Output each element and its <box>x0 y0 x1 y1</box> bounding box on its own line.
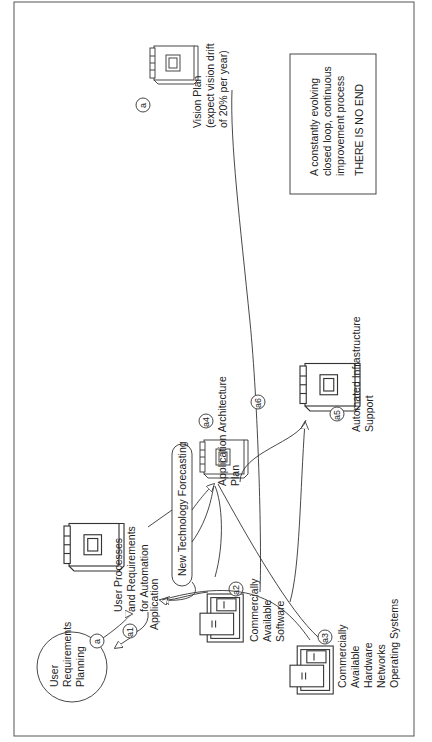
svg-text:New Technology Forecasting: New Technology Forecasting <box>176 441 188 576</box>
node-commercially-available-hardware[interactable]: a3 Commercially Available Hardware Netwo… <box>290 599 400 694</box>
svg-text:Vision Plan: Vision Plan <box>191 75 203 128</box>
svg-text:a4: a4 <box>201 417 211 427</box>
svg-text:Hardware: Hardware <box>362 642 374 688</box>
badge-a2: a2 <box>229 582 243 596</box>
svg-text:User Processes: User Processes <box>112 538 124 612</box>
svg-text:Requirements: Requirements <box>61 622 73 687</box>
svg-text:Networks: Networks <box>375 644 387 688</box>
badge-a1: a1 <box>123 624 137 638</box>
cabinet-icon <box>200 594 243 642</box>
svg-text:a5: a5 <box>332 410 342 420</box>
svg-text:Automated Infrastructure: Automated Infrastructure <box>350 316 362 432</box>
svg-text:Available: Available <box>349 645 361 688</box>
node-new-technology-forecasting[interactable]: New Technology Forecasting <box>172 441 192 586</box>
diagram-page: User Requirements Planning a User Proces… <box>0 0 432 742</box>
badge-a4: a4 <box>199 414 213 428</box>
badge-a3: a3 <box>318 630 332 644</box>
node-automated-infrastructure-support[interactable]: a5 Automated Infrastructure Support <box>300 316 375 432</box>
svg-text:improvement process: improvement process <box>334 76 346 176</box>
svg-text:and Requirements: and Requirements <box>125 526 137 612</box>
svg-text:of 20% per year): of 20% per year) <box>217 50 229 128</box>
svg-text:A constantly evolving: A constantly evolving <box>308 78 320 176</box>
svg-text:a2: a2 <box>231 585 241 595</box>
svg-text:a3: a3 <box>320 633 330 643</box>
svg-text:Available: Available <box>261 599 273 642</box>
svg-text:closed loop, continuous: closed loop, continuous <box>321 66 333 176</box>
badge-vision-a: a <box>136 98 150 112</box>
svg-text:Plan: Plan <box>229 465 241 486</box>
badge-a5: a5 <box>330 407 344 421</box>
svg-text:a: a <box>138 103 148 108</box>
node-user-processes[interactable]: User Processes and Requirements for Auto… <box>64 524 150 613</box>
cabinet-icon <box>290 646 333 694</box>
svg-text:Software: Software <box>274 600 286 642</box>
node-commercially-available-software[interactable]: a2 Commercially Available Software <box>200 578 286 642</box>
svg-text:User: User <box>48 664 60 687</box>
node-application-architecture-plan[interactable]: a4 Application Architecture Plan <box>199 376 248 486</box>
svg-text:Operating Systems: Operating Systems <box>388 599 400 688</box>
svg-text:Application Architecture: Application Architecture <box>216 376 228 486</box>
svg-text:THERE IS NO END: THERE IS NO END <box>353 83 365 176</box>
arrow-a1-to-urp <box>115 638 130 648</box>
svg-text:Commercially: Commercially <box>248 578 260 642</box>
node-vision-plan[interactable]: a Vision Plan (expect vision drift of 20… <box>136 43 229 128</box>
svg-text:a1: a1 <box>125 627 135 637</box>
svg-text:Commercially: Commercially <box>336 624 348 688</box>
svg-text:a6: a6 <box>253 398 263 408</box>
svg-text:a: a <box>92 639 102 644</box>
svg-text:Support: Support <box>363 395 375 432</box>
svg-text:Planning: Planning <box>74 646 86 687</box>
svg-text:(expect vision drift: (expect vision drift <box>204 43 216 128</box>
note-box: A constantly evolving closed loop, conti… <box>290 54 376 194</box>
node-application-label: Application <box>148 578 160 630</box>
diagram-canvas: User Requirements Planning a User Proces… <box>0 0 432 742</box>
badge-a6: a6 <box>251 395 265 409</box>
node-user-requirements-planning[interactable]: User Requirements Planning a <box>37 622 107 702</box>
